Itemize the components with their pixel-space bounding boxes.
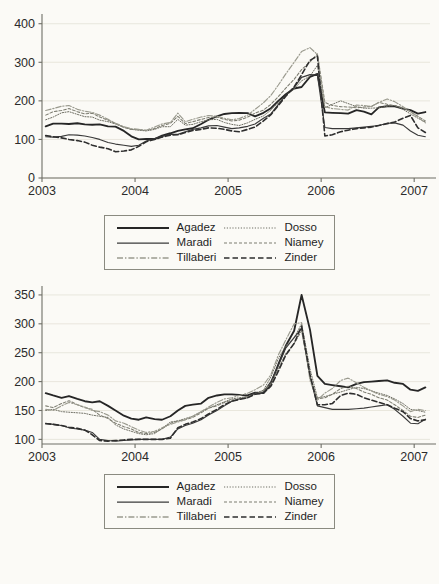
x-axis-tick-label: 2007 bbox=[400, 450, 428, 464]
x-axis-tick-label: 2005 bbox=[214, 450, 242, 464]
line-sample-dash-dot bbox=[115, 252, 171, 264]
series-line-zinder bbox=[46, 56, 426, 152]
x-axis-tick-label: 2003 bbox=[28, 450, 56, 464]
legend-swatch-tillaberi bbox=[112, 250, 174, 265]
legend-row: Tillaberi Zinder bbox=[112, 509, 326, 524]
line-sample-solid-thin bbox=[115, 237, 171, 249]
legend-label-niamey: Niamey bbox=[281, 494, 325, 509]
top-legend-table: Agadez Dosso Maradi Niamey bbox=[112, 220, 326, 265]
line-sample-solid-thick bbox=[115, 481, 171, 493]
x-axis-tick-label: 2003 bbox=[28, 184, 56, 198]
line-sample-solid-thin bbox=[115, 496, 171, 508]
y-axis-tick-label: 350 bbox=[14, 288, 35, 302]
y-axis-tick-label: 400 bbox=[14, 17, 35, 31]
x-axis-tick-label: 2006 bbox=[307, 450, 335, 464]
bottom-legend-table: Agadez Dosso Maradi Niamey bbox=[112, 479, 326, 524]
x-axis-tick-label: 2004 bbox=[121, 184, 149, 198]
y-axis-tick-label: 150 bbox=[14, 404, 35, 418]
line-sample-dotted-fine bbox=[222, 222, 278, 234]
legend-label-dosso: Dosso bbox=[281, 479, 325, 494]
series-line-dosso bbox=[46, 65, 426, 131]
legend-swatch-dosso bbox=[219, 479, 281, 494]
legend-swatch-agadez bbox=[112, 220, 174, 235]
series-line-maradi bbox=[46, 328, 426, 441]
top-legend-wrap: Agadez Dosso Maradi Niamey bbox=[0, 215, 439, 270]
legend-label-zinder: Zinder bbox=[281, 250, 325, 265]
y-axis-tick-label: 100 bbox=[14, 133, 35, 147]
legend-label-dosso: Dosso bbox=[281, 220, 325, 235]
legend-label-agadez: Agadez bbox=[174, 479, 220, 494]
line-sample-dashed-fine bbox=[222, 496, 278, 508]
line-sample-dash-dot bbox=[115, 511, 171, 523]
legend-swatch-maradi bbox=[112, 235, 174, 250]
line-sample-dashed-bold bbox=[222, 252, 278, 264]
bottom-legend-wrap: Agadez Dosso Maradi Niamey bbox=[0, 474, 439, 529]
legend-row: Tillaberi Zinder bbox=[112, 250, 326, 265]
legend-row: Maradi Niamey bbox=[112, 235, 326, 250]
y-axis-tick-label: 250 bbox=[14, 346, 35, 360]
line-sample-solid-thick bbox=[115, 222, 171, 234]
top-chart-plot: 010020030040020032004200520062007 bbox=[0, 0, 439, 215]
legend-swatch-agadez bbox=[112, 479, 174, 494]
legend-swatch-tillaberi bbox=[112, 509, 174, 524]
legend-label-maradi: Maradi bbox=[174, 494, 220, 509]
legend-label-tillaberi: Tillaberi bbox=[174, 509, 220, 524]
legend-swatch-niamey bbox=[219, 494, 281, 509]
series-line-dosso bbox=[46, 324, 426, 435]
y-axis-tick-label: 200 bbox=[14, 94, 35, 108]
line-sample-dotted-fine bbox=[222, 481, 278, 493]
legend-swatch-maradi bbox=[112, 494, 174, 509]
legend-label-tillaberi: Tillaberi bbox=[174, 250, 220, 265]
bottom-chart-plot: 10015020025030035020032004200520062007 bbox=[0, 276, 439, 474]
legend-swatch-niamey bbox=[219, 235, 281, 250]
legend-swatch-dosso bbox=[219, 220, 281, 235]
x-axis-tick-label: 2007 bbox=[400, 184, 428, 198]
bottom-legend: Agadez Dosso Maradi Niamey bbox=[104, 474, 336, 529]
top-legend: Agadez Dosso Maradi Niamey bbox=[104, 215, 336, 270]
x-axis-tick-label: 2006 bbox=[307, 184, 335, 198]
legend-swatch-zinder bbox=[219, 250, 281, 265]
legend-label-agadez: Agadez bbox=[174, 220, 220, 235]
legend-label-zinder: Zinder bbox=[281, 509, 325, 524]
y-axis-tick-label: 100 bbox=[14, 433, 35, 447]
legend-label-niamey: Niamey bbox=[281, 235, 325, 250]
line-sample-dashed-bold bbox=[222, 511, 278, 523]
series-line-zinder bbox=[46, 326, 426, 441]
legend-label-maradi: Maradi bbox=[174, 235, 220, 250]
y-axis-tick-label: 300 bbox=[14, 56, 35, 70]
y-axis-tick-label: 200 bbox=[14, 375, 35, 389]
legend-row: Agadez Dosso bbox=[112, 220, 326, 235]
line-sample-dashed-fine bbox=[222, 237, 278, 249]
top-panel: 010020030040020032004200520062007 bbox=[0, 0, 439, 215]
x-axis-tick-label: 2004 bbox=[121, 450, 149, 464]
bottom-panel: 10015020025030035020032004200520062007 bbox=[0, 276, 439, 474]
legend-swatch-zinder bbox=[219, 509, 281, 524]
series-line-maradi bbox=[46, 75, 426, 147]
y-axis-tick-label: 300 bbox=[14, 317, 35, 331]
legend-row: Agadez Dosso bbox=[112, 479, 326, 494]
x-axis-tick-label: 2005 bbox=[214, 184, 242, 198]
series-line-tillaberi bbox=[46, 48, 426, 131]
legend-row: Maradi Niamey bbox=[112, 494, 326, 509]
